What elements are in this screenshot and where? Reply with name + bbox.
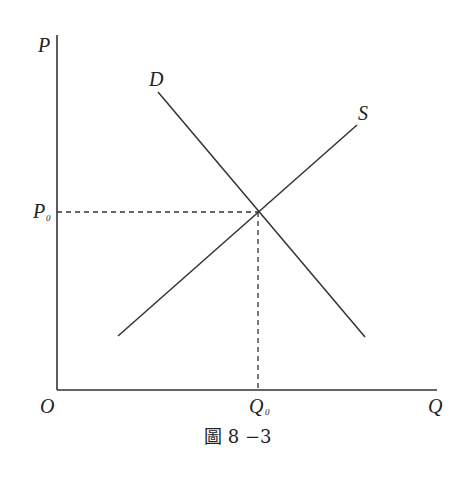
equilibrium-price-subscript: 0 — [46, 213, 51, 223]
equilibrium-quantity-label: Q — [249, 395, 264, 417]
x-axis-label: Q — [428, 395, 443, 417]
demand-label: D — [148, 68, 164, 90]
figure-caption: 圖 8 −3 — [204, 426, 271, 447]
supply-label: S — [358, 102, 368, 124]
supply-curve — [118, 125, 357, 336]
y-axis-label: P — [37, 34, 50, 56]
origin-label: O — [40, 395, 54, 417]
equilibrium-quantity-subscript: 0 — [265, 407, 270, 417]
equilibrium-price-label: P — [32, 200, 45, 222]
demand-curve — [158, 92, 365, 337]
supply-demand-diagram: P D S P 0 O Q 0 Q 圖 8 −3 — [0, 0, 469, 480]
